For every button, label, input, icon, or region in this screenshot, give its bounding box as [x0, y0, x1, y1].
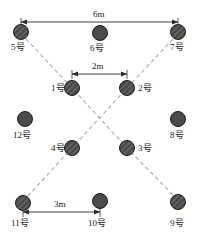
node-label-7: 7号 — [170, 43, 184, 52]
sensor-node-8[interactable] — [171, 112, 186, 127]
sensor-layout-diagram: 1号2号3号4号5号6号7号8号9号10号11号12号 6m2m3m — [0, 0, 202, 241]
node-label-2: 2号 — [138, 84, 152, 93]
node-hatch-overlay-icon — [65, 141, 79, 155]
sensor-node-9[interactable] — [171, 195, 186, 210]
diagram-canvas — [0, 0, 202, 241]
sensor-node-2[interactable] — [120, 81, 135, 96]
node-label-11: 11号 — [11, 219, 29, 228]
node-circle-icon — [18, 112, 33, 127]
node-hatch-overlay-icon — [16, 196, 30, 210]
node-label-6: 6号 — [90, 44, 104, 53]
node-circle-icon — [171, 112, 186, 127]
sensor-node-6[interactable] — [93, 26, 108, 41]
sensor-node-10[interactable] — [93, 194, 108, 209]
sensor-node-11[interactable] — [16, 196, 31, 211]
sensor-node-3[interactable] — [120, 141, 135, 156]
node-hatch-overlay-icon — [120, 141, 134, 155]
sensor-node-4[interactable] — [65, 141, 80, 156]
dimension-label-dim-middle: 2m — [92, 62, 104, 71]
sensor-node-5[interactable] — [14, 25, 29, 40]
node-hatch-overlay-icon — [14, 25, 28, 39]
node-label-1: 1号 — [51, 84, 65, 93]
sensor-node-7[interactable] — [171, 25, 186, 40]
sensor-node-12[interactable] — [18, 112, 33, 127]
dimension-label-dim-top: 6m — [93, 10, 105, 19]
node-label-3: 3号 — [138, 144, 152, 153]
node-label-12: 12号 — [13, 131, 31, 140]
sensor-node-1[interactable] — [65, 81, 80, 96]
node-circle-icon — [93, 26, 108, 41]
node-hatch-overlay-icon — [171, 195, 185, 209]
node-hatch-overlay-icon — [65, 81, 79, 95]
node-label-5: 5号 — [11, 43, 25, 52]
node-hatch-overlay-icon — [171, 25, 185, 39]
dimension-label-dim-bottom: 3m — [54, 200, 66, 209]
node-label-10: 10号 — [88, 219, 106, 228]
node-label-9: 9号 — [170, 219, 184, 228]
node-circle-icon — [93, 194, 108, 209]
node-hatch-overlay-icon — [120, 81, 134, 95]
node-label-8: 8号 — [170, 131, 184, 140]
node-label-4: 4号 — [51, 144, 65, 153]
